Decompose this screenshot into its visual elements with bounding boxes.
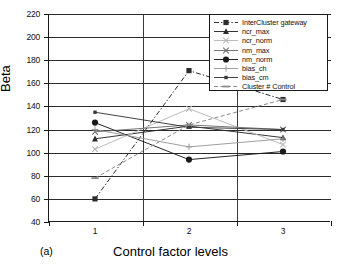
legend-marker-filled-triangle-icon	[213, 27, 239, 36]
y-tick-label: 80	[0, 172, 40, 180]
legend-item: InterCluster gateway	[213, 18, 324, 27]
x-axis-tick	[331, 221, 332, 226]
data-point-filled-square	[92, 196, 97, 201]
legend-item: Cluster # Control	[213, 82, 324, 91]
data-point-dash	[222, 86, 229, 88]
x-tick-label: 1	[75, 226, 115, 236]
y-tick-label: 180	[0, 56, 40, 64]
legend-label: ncr_max	[239, 27, 269, 36]
chart-figure: Beta 220200180160140120100806040 123 Int…	[0, 0, 341, 267]
data-point-plus	[280, 136, 286, 142]
data-point-dash	[185, 124, 192, 126]
panel-label: (a)	[40, 245, 53, 257]
data-point-plus	[186, 144, 192, 150]
data-point-filled-circle	[280, 148, 286, 154]
legend-label: nm_max	[239, 46, 269, 55]
legend-item: bias_cm	[213, 73, 324, 82]
data-point-filled-circle	[92, 120, 98, 126]
x-tick-label: 2	[169, 226, 209, 236]
y-tick-label: 60	[0, 195, 40, 203]
data-point-small-square	[187, 126, 190, 129]
legend-item: ncr_max	[213, 27, 324, 36]
y-tick-label: 200	[0, 33, 40, 41]
legend-label: bias_ch	[239, 64, 266, 73]
legend-label: InterCluster gateway	[239, 18, 307, 27]
data-point-filled-square	[186, 68, 191, 73]
x-tick-label: 3	[263, 226, 303, 236]
legend-item: bias_ch	[213, 64, 324, 73]
data-point-small-square	[281, 128, 284, 131]
legend-marker-x-icon	[213, 46, 239, 55]
data-point-filled-circle	[186, 157, 192, 163]
y-tick-label: 140	[0, 102, 40, 110]
legend-item: nm_norm	[213, 55, 324, 64]
legend-marker-filled-square-icon	[213, 18, 239, 27]
data-point-plus	[223, 65, 229, 71]
legend-label: ncr_norm	[239, 36, 272, 45]
y-tick-label: 160	[0, 79, 40, 87]
legend-item: ncr_norm	[213, 36, 324, 45]
series-cluster-control	[91, 99, 286, 179]
data-point-filled-square	[223, 20, 228, 25]
legend-label: bias_cm	[239, 73, 268, 82]
data-point-x-light	[280, 142, 286, 148]
data-point-dash	[279, 99, 286, 101]
legend-marker-plus-icon	[213, 64, 239, 73]
y-tick-label: 40	[0, 218, 40, 226]
y-tick-label: 120	[0, 126, 40, 134]
legend-marker-dash-icon	[213, 82, 239, 91]
data-point-filled-circle	[223, 56, 229, 62]
legend-marker-small-square-icon	[213, 73, 239, 82]
data-point-x-light	[92, 146, 98, 152]
y-tick-label: 100	[0, 149, 40, 157]
legend-marker-x-light-icon	[213, 36, 239, 45]
y-tick-label: 220	[0, 10, 40, 18]
data-point-x-light	[186, 106, 192, 112]
legend-label: nm_norm	[239, 55, 272, 64]
data-point-small-square	[224, 76, 227, 79]
data-point-dash	[91, 177, 98, 179]
data-point-small-square	[93, 111, 96, 114]
legend-label: Cluster # Control	[239, 82, 295, 91]
legend-item: nm_max	[213, 46, 324, 55]
chart-legend: InterCluster gatewayncr_maxncr_normnm_ma…	[209, 14, 328, 91]
legend-marker-filled-circle-icon	[213, 55, 239, 64]
